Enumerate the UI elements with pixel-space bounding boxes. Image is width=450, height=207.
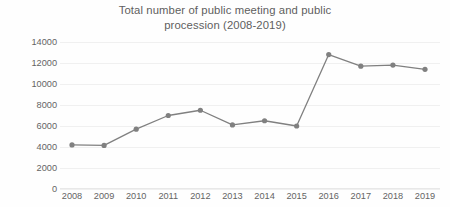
data-point-marker: [166, 113, 171, 118]
data-series-layer: [0, 0, 450, 207]
data-point-marker: [422, 67, 427, 72]
data-point-marker: [134, 127, 139, 132]
data-point-marker: [230, 122, 235, 127]
data-point-marker: [358, 64, 363, 69]
data-point-marker: [326, 52, 331, 57]
series-markers: [69, 52, 427, 148]
data-point-marker: [198, 108, 203, 113]
data-point-marker: [390, 63, 395, 68]
data-point-marker: [101, 143, 106, 148]
data-point-marker: [262, 118, 267, 123]
line-chart: Total number of public meeting and publi…: [0, 0, 450, 207]
data-point-marker: [69, 142, 74, 147]
series-line: [72, 55, 425, 146]
data-point-marker: [294, 123, 299, 128]
